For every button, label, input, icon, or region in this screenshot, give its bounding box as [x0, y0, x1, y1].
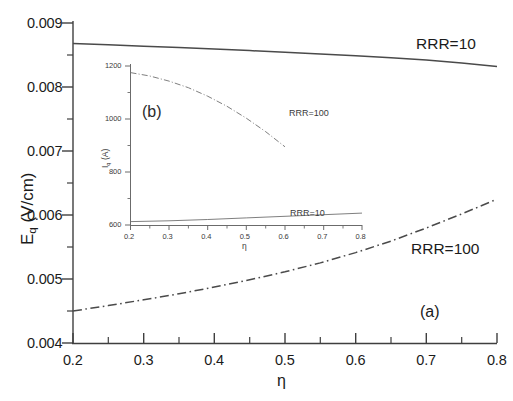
inset-y-axis-label: Iq (A) — [100, 149, 111, 168]
inset-xtick-05: 0.5 — [240, 232, 250, 241]
inset-xtick-03: 0.3 — [163, 232, 173, 241]
main-xtick-03: 0.3 — [134, 352, 154, 368]
main-xtick-08: 0.8 — [487, 352, 507, 368]
inset-xtick-08: 0.8 — [356, 232, 366, 241]
inset-x-axis — [130, 225, 362, 230]
main-ytick-0005: 0.005 — [27, 271, 62, 287]
main-xtick-02: 0.2 — [63, 352, 83, 368]
inset-y-axis-label-sub: q — [105, 162, 111, 165]
figure-panel-a: 0.009 0.008 0.007 0.006 0.005 0.004 0.2 … — [0, 0, 513, 401]
panel-b-label: (b) — [142, 103, 162, 121]
main-y-axis-label: Eq (V/cm) — [18, 172, 38, 245]
inset-y-axis-label-unit: (A) — [100, 149, 110, 163]
main-xtick-06: 0.6 — [346, 352, 366, 368]
inset-annotation-rrr10: RRR=10 — [290, 208, 325, 218]
main-ytick-0009: 0.009 — [27, 15, 62, 31]
inset-xtick-04: 0.4 — [201, 232, 211, 241]
inset-ytick-1000: 1000 — [105, 114, 121, 123]
inset-annotation-rrr100: RRR=100 — [289, 108, 329, 118]
inset-ytick-600: 600 — [109, 220, 121, 229]
panel-a-label: (a) — [420, 303, 440, 321]
main-annotation-rrr10: RRR=10 — [416, 35, 476, 53]
main-ytick-0007: 0.007 — [27, 143, 62, 159]
inset-x-axis-label: η — [242, 241, 247, 251]
main-xtick-05: 0.5 — [275, 352, 295, 368]
inset-xtick-06: 0.6 — [279, 232, 289, 241]
main-ytick-0004: 0.004 — [27, 335, 62, 351]
main-xtick-04: 0.4 — [204, 352, 224, 368]
inset-curve-rrr10 — [131, 213, 363, 222]
main-y-axis-label-sub: q — [26, 227, 38, 233]
inset-y-axis — [125, 64, 131, 226]
main-y-axis-label-base: E — [18, 234, 37, 245]
main-ytick-0008: 0.008 — [27, 79, 62, 95]
inset-xtick-02: 0.2 — [124, 232, 134, 241]
main-x-axis-label: η — [277, 372, 286, 390]
main-xtick-07: 0.7 — [416, 352, 436, 368]
main-x-axis — [72, 333, 497, 344]
main-y-axis-label-unit: (V/cm) — [18, 172, 37, 227]
inset-ytick-1200: 1200 — [105, 61, 121, 70]
main-annotation-rrr100: RRR=100 — [411, 240, 480, 258]
inset-ytick-800: 800 — [109, 167, 121, 176]
inset-xtick-07: 0.7 — [317, 232, 327, 241]
main-y-axis — [62, 21, 73, 344]
plot-canvas — [0, 0, 513, 401]
